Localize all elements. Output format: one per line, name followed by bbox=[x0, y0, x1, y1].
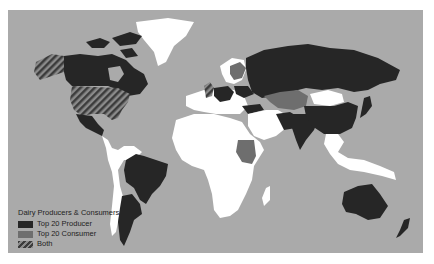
region-se-asia bbox=[324, 134, 396, 180]
legend-title: Dairy Producers & Consumers bbox=[18, 208, 119, 218]
legend-label: Top 20 Consumer bbox=[37, 229, 96, 239]
region-mexico bbox=[76, 114, 104, 136]
region-greenland bbox=[136, 18, 194, 66]
region-russia bbox=[246, 44, 400, 98]
region-australia bbox=[342, 184, 388, 220]
consumer-swatch-icon bbox=[18, 231, 33, 238]
legend-item-both: Both bbox=[18, 239, 119, 249]
world-map: Dairy Producers & Consumers Top 20 Produ… bbox=[8, 10, 423, 253]
region-alaska bbox=[34, 54, 64, 80]
legend-label: Both bbox=[37, 239, 52, 249]
legend-label: Top 20 Producer bbox=[37, 219, 92, 229]
region-new-zealand bbox=[396, 218, 410, 238]
producer-swatch-icon bbox=[18, 221, 33, 228]
map-legend: Dairy Producers & Consumers Top 20 Produ… bbox=[18, 208, 119, 249]
region-madagascar bbox=[262, 186, 270, 206]
legend-item-producer: Top 20 Producer bbox=[18, 219, 119, 229]
region-canada-islands bbox=[86, 32, 142, 58]
region-japan bbox=[360, 96, 372, 118]
region-argentina bbox=[118, 194, 142, 246]
legend-item-consumer: Top 20 Consumer bbox=[18, 229, 119, 239]
region-mongolia bbox=[310, 90, 344, 106]
both-swatch-icon bbox=[18, 241, 33, 248]
